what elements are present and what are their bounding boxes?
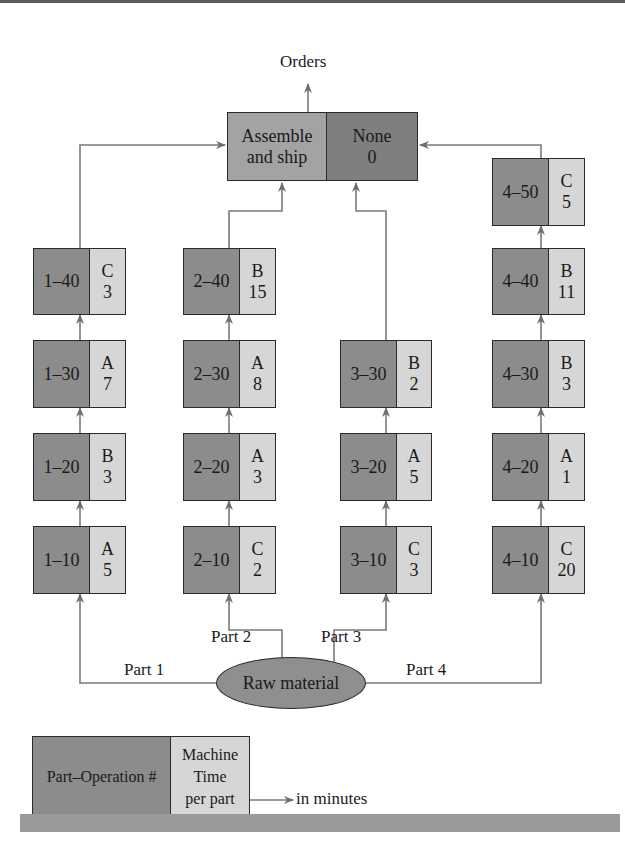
operation-box-1-40: 1–40 C3 [33,248,126,315]
time: 11 [558,282,575,303]
op-id: 1–20 [34,434,90,500]
op-machine-time: A5 [397,434,431,500]
machine: A [101,353,114,374]
op-machine-time: C3 [397,527,431,593]
op-machine-time: C2 [240,527,275,593]
operation-box-4-40: 4–40 B11 [492,248,585,315]
time: 3 [410,560,419,581]
op-id: 2–30 [184,341,240,407]
machine: C [251,539,263,560]
op-id: 2–10 [184,527,240,593]
machine: C [101,261,113,282]
part-3-label: Part 3 [321,627,361,647]
assembly-operation: Assemble and ship [228,113,327,180]
op-id: 4–10 [493,527,549,593]
op-id: 4–30 [493,341,549,407]
operation-box-2-10: 2–10 C2 [183,526,276,594]
op-id: 3–30 [341,341,397,407]
time: 5 [562,192,571,213]
op-id: 2–40 [184,249,240,314]
op-machine-time: C5 [549,159,584,225]
operation-box-4-50: 4–50 C5 [492,158,585,226]
legend-box: Part–Operation # Machine Time per part [32,736,250,818]
machine: A [101,539,114,560]
op-id: 4–50 [493,159,549,225]
machine: C [560,539,572,560]
operation-box-2-30: 2–30 A8 [183,340,276,408]
op-machine-time: A1 [549,434,584,500]
time: 15 [249,282,267,303]
operation-box-1-10: 1–10 A5 [33,526,126,594]
time: 3 [253,467,262,488]
machine: B [251,261,263,282]
op-machine-time: A8 [240,341,275,407]
time: 3 [562,374,571,395]
operation-box-3-30: 3–30 B2 [340,340,432,408]
operation-box-4-10: 4–10 C20 [492,526,585,594]
machine: C [560,171,572,192]
machine: B [560,353,572,374]
time: 7 [103,374,112,395]
legend-machine-time: Machine Time per part [171,737,249,817]
op-machine-time: B2 [397,341,431,407]
op-machine-time: B3 [549,341,584,407]
op-id: 3–20 [341,434,397,500]
time: 2 [410,374,419,395]
op-machine-time: C20 [549,527,584,593]
op-id: 4–20 [493,434,549,500]
op-machine-time: A3 [240,434,275,500]
operation-box-1-30: 1–30 A7 [33,340,126,408]
time: 5 [410,467,419,488]
time: 2 [253,560,262,581]
machine: C [408,539,420,560]
op-machine-time: A7 [90,341,125,407]
op-machine-time: C3 [90,249,125,314]
assembly-time: 0 [368,147,377,168]
op-machine-time: B15 [240,249,275,314]
raw-material-node: Raw material [216,657,366,709]
assembly-machine: None 0 [327,113,417,180]
operation-box-3-20: 3–20 A5 [340,433,432,501]
legend-unit-note: in minutes [296,789,367,809]
assemble-and-ship-box: Assemble and ship None 0 [227,112,418,181]
legend-machine-label: Machine [182,744,238,766]
machine: B [560,261,572,282]
op-id: 4–40 [493,249,549,314]
legend-operation-label: Part–Operation # [33,737,171,817]
time: 1 [562,467,571,488]
bottom-rule [20,814,620,832]
time: 3 [103,467,112,488]
operation-box-2-20: 2–20 A3 [183,433,276,501]
assembly-op-line2: and ship [247,147,308,168]
op-id: 1–10 [34,527,90,593]
legend-time-line1: Time [193,766,226,788]
op-machine-time: B3 [90,434,125,500]
op-id: 3–10 [341,527,397,593]
op-machine-time: A5 [90,527,125,593]
raw-material-label: Raw material [243,673,339,694]
operation-box-3-10: 3–10 C3 [340,526,432,594]
assembly-machine-name: None [353,126,392,147]
machine: B [408,353,420,374]
assembly-op-line1: Assemble [242,126,313,147]
orders-label: Orders [280,52,326,72]
machine: B [101,446,113,467]
operation-box-4-30: 4–30 B3 [492,340,585,408]
op-id: 2–20 [184,434,240,500]
op-id: 1–40 [34,249,90,314]
part-2-label: Part 2 [211,627,251,647]
part-1-label: Part 1 [124,660,164,680]
time: 8 [253,374,262,395]
time: 3 [103,282,112,303]
op-id: 1–30 [34,341,90,407]
operation-box-2-40: 2–40 B15 [183,248,276,315]
machine: A [251,353,264,374]
part-4-label: Part 4 [406,660,446,680]
legend-time-line2: per part [185,788,234,810]
op-machine-time: B11 [549,249,584,314]
time: 20 [558,560,576,581]
operation-box-4-20: 4–20 A1 [492,433,585,501]
time: 5 [103,560,112,581]
operation-box-1-20: 1–20 B3 [33,433,126,501]
machine: A [408,446,421,467]
